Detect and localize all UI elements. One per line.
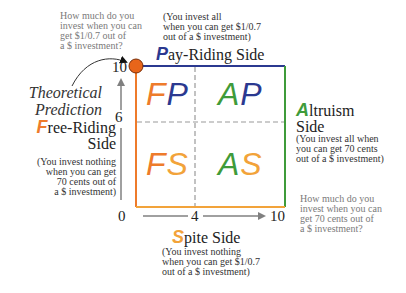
x-tick-0: 0 bbox=[118, 209, 126, 224]
quadrant-fp: FP bbox=[146, 78, 189, 110]
question-dollar-per-07: How much do you invest when you can get … bbox=[60, 11, 150, 51]
theoretical-prediction-label: Theoretical Prediction bbox=[4, 84, 102, 118]
pay-riding-side-title: Pay-Riding Side bbox=[156, 46, 264, 63]
spite-note: (You invest nothing when you can get $1/… bbox=[162, 247, 302, 277]
theoretical-prediction-dot bbox=[129, 59, 143, 73]
pay-riding-note: (You invest all when you can get $1/0.7 … bbox=[163, 12, 303, 42]
quadrant-as: AS bbox=[218, 148, 263, 180]
quadrant-fs: FS bbox=[146, 148, 189, 180]
free-riding-side-title: Free-Riding Side bbox=[20, 119, 116, 152]
altruism-note: (You invest all when you can get 70 cent… bbox=[296, 134, 406, 164]
free-riding-note: (You invest nothing when you can get 70 … bbox=[18, 157, 116, 197]
y-tick-6: 6 bbox=[115, 110, 123, 125]
x-tick-10: 10 bbox=[270, 209, 285, 224]
y-tick-10: 10 bbox=[112, 60, 127, 75]
spite-side-title: Spite Side bbox=[172, 229, 240, 246]
altruism-side-title: Altruism Side bbox=[296, 102, 354, 135]
x-tick-4: 4 bbox=[191, 209, 199, 224]
quadrant-ap: AP bbox=[218, 78, 263, 110]
question-70-cents: How much do you invest when you can get … bbox=[300, 194, 406, 234]
